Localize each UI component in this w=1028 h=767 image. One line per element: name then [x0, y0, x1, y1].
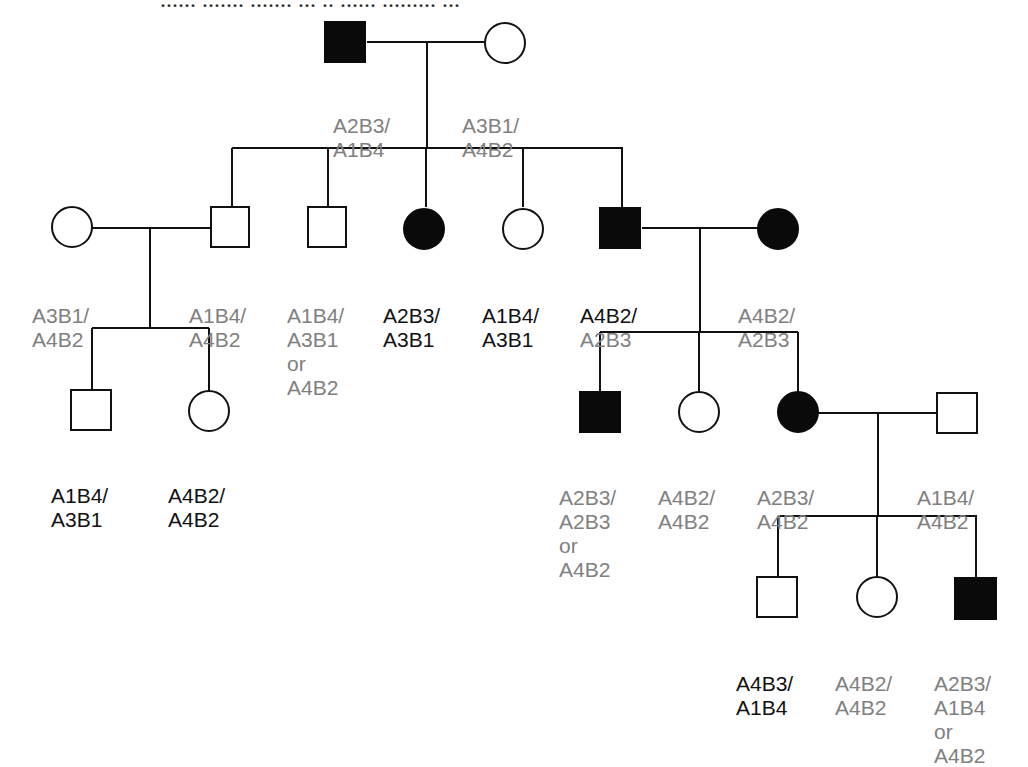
individual-IV3 — [955, 578, 996, 619]
genotype-III1: A1B4/A3B1 — [51, 436, 108, 556]
genotype-II6: A4B2/A2B3 — [580, 256, 637, 376]
genotype-III3: A2B3/A2B3orA4B2 — [559, 438, 616, 606]
individual-III1 — [71, 390, 111, 430]
genotype-II3: A1B4/A3B1orA4B2 — [287, 256, 344, 424]
genotype-II7: A4B2/A2B3 — [738, 256, 795, 376]
individual-IV2 — [857, 577, 897, 617]
genotype-I1: A2B3/A1B4 — [333, 66, 390, 186]
individual-IV1 — [757, 577, 797, 617]
individual-III4 — [679, 392, 719, 432]
individual-III5 — [778, 392, 818, 432]
genotype-IV2: A4B2/A4B2 — [835, 624, 892, 744]
individual-II1 — [52, 207, 92, 247]
genotype-III5: A2B3/A4B2 — [757, 438, 814, 558]
genotype-III2: A4B2/A4B2 — [168, 436, 225, 556]
individual-I2 — [485, 23, 525, 63]
individual-II3 — [308, 207, 346, 247]
individual-II2 — [211, 207, 249, 247]
individual-II7 — [758, 209, 798, 249]
genotype-III6: A1B4/A4B2 — [917, 438, 974, 558]
individual-I1 — [325, 22, 365, 62]
individual-II5 — [503, 209, 543, 249]
individual-II4 — [404, 209, 444, 249]
genotype-II1: A3B1/A4B2 — [32, 256, 89, 376]
individual-III3 — [580, 392, 620, 432]
individual-II6 — [600, 208, 640, 248]
individual-III2 — [189, 391, 229, 431]
genotype-II5: A1B4/A3B1 — [482, 256, 539, 376]
genotype-II2: A1B4/A4B2 — [189, 256, 246, 376]
genotype-II4: A2B3/A3B1 — [383, 256, 440, 376]
genotype-I2: A3B1/A4B2 — [462, 66, 519, 186]
genotype-IV1: A4B3/A1B4 — [736, 624, 793, 744]
gen-1-lines — [232, 42, 623, 207]
genotype-III4: A4B2/A4B2 — [658, 438, 715, 558]
individual-III6 — [937, 393, 977, 433]
genotype-IV3: A2B3/A1B4orA4B2 — [934, 624, 991, 767]
